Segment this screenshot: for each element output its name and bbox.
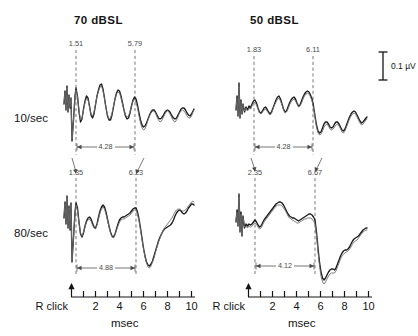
latency-label-peak-V: 6.23: [129, 168, 143, 177]
latency-label-peak-I: 1.35: [69, 168, 83, 177]
amplitude-scale-bar: [379, 52, 388, 80]
x-axis-tick-4: 4: [116, 300, 122, 312]
panel-70dbsl-10sec: 1.51 5.79 4.28: [64, 39, 194, 155]
stimulus-onset-arrow: [245, 283, 251, 289]
latency-label-peak-V: 6.11: [306, 45, 320, 54]
abr-trace-replication-2: [64, 198, 194, 268]
x-axis-tick-8: 8: [341, 300, 347, 312]
abr-waveform-figure: 70 dBSL 50 dBSL 10/sec 80/sec msec msec …: [0, 0, 418, 336]
x-axis-tick-6: 6: [140, 300, 146, 312]
x-axis-caption-right: msec: [288, 317, 315, 329]
x-axis-tick-6: 6: [317, 300, 323, 312]
x-axis-tick-2: 2: [269, 300, 275, 312]
latency-label-peak-I: 2.35: [248, 168, 262, 177]
waveform-canvas: 1.51 5.79 4.28 1.83 6.11: [0, 0, 418, 336]
x-axis-tick-4: 4: [293, 300, 299, 312]
x-axis-origin-label: R click: [36, 300, 69, 312]
interpeak-interval-arrow: 4.28: [255, 142, 312, 151]
interpeak-interval-label: 4.12: [278, 261, 292, 270]
x-axis-right: R click 2 4 6 8 10: [213, 283, 375, 312]
panel-70dbsl-80sec: 1.35 6.23 4.88: [64, 158, 194, 275]
x-axis-caption-left: msec: [111, 317, 138, 329]
latency-label-peak-I: 1.51: [69, 39, 83, 48]
x-axis-left: R click 2 4 6 8 10: [36, 283, 198, 312]
latency-label-peak-I: 1.83: [247, 45, 261, 54]
x-axis-tick-2: 2: [92, 300, 98, 312]
abr-trace-replication-1: [64, 84, 194, 141]
interpeak-interval-label: 4.88: [99, 263, 113, 272]
interpeak-interval-arrow: 4.88: [77, 263, 135, 272]
panel-50dbsl-10sec: 1.83 6.11 4.28: [236, 45, 367, 155]
row-label-80-per-sec: 80/sec: [14, 227, 48, 239]
interpeak-interval-label: 4.28: [277, 142, 291, 151]
x-axis-origin-label: R click: [213, 300, 246, 312]
interpeak-interval-arrow: 4.28: [77, 142, 134, 151]
latency-label-peak-V: 5.79: [128, 39, 142, 48]
latency-label-peak-V: 6.67: [308, 168, 322, 177]
x-axis-tick-10: 10: [362, 300, 374, 312]
column-title-70dbsl: 70 dBSL: [74, 14, 123, 26]
panel-50dbsl-80sec: 2.35 6.67 4.12: [236, 158, 367, 284]
interpeak-interval-arrow: 4.12: [256, 261, 314, 270]
stimulus-onset-arrow: [68, 283, 74, 289]
row-label-10-per-sec: 10/sec: [14, 112, 48, 124]
x-axis-tick-8: 8: [164, 300, 170, 312]
abr-trace-replication-2: [236, 197, 367, 284]
interpeak-interval-label: 4.28: [99, 142, 113, 151]
x-axis-tick-10: 10: [185, 300, 197, 312]
abr-trace-replication-2: [236, 86, 367, 135]
scale-bar-label: 0.1 µV: [391, 61, 416, 71]
column-title-50dbsl: 50 dBSL: [250, 14, 299, 26]
